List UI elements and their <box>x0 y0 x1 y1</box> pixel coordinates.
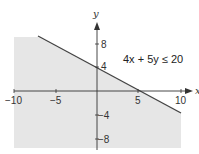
inequality-label: 4x + 5y ≤ 20 <box>123 53 183 65</box>
y-axis-arrow-icon <box>94 22 100 30</box>
y-tick-label: −4 <box>98 110 110 121</box>
y-tick-label: −8 <box>98 134 110 145</box>
x-axis-arrow-icon <box>185 88 193 94</box>
y-axis-label: y <box>92 8 99 19</box>
inequality-graph: x y −10 −5 5 10 8 4 −4 −8 4x + 5y ≤ 20 <box>0 0 199 154</box>
x-axis-label: x <box>195 85 199 96</box>
x-tick-label: −10 <box>5 95 22 106</box>
x-tick-label: 5 <box>135 95 141 106</box>
x-tick-label: 10 <box>175 95 187 106</box>
y-tick-label: 4 <box>101 61 107 72</box>
x-tick-label: −5 <box>50 95 62 106</box>
y-tick-label: 8 <box>101 39 107 50</box>
